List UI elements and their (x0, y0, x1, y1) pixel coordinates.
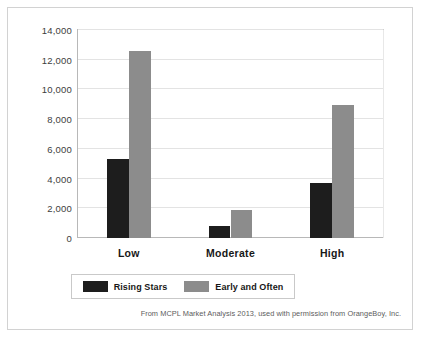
legend-label-early-and-often: Early and Often (215, 282, 283, 292)
legend-item: Rising Stars (83, 281, 168, 292)
bar-moderate-rising-stars (209, 226, 231, 238)
bar-moderate-early-and-often (231, 210, 253, 238)
chart-figure: 02,0004,0006,0008,00010,00012,00014,000 … (7, 7, 413, 330)
x-tick-label-low: Low (118, 247, 140, 259)
legend-item: Early and Often (184, 281, 283, 292)
bar-high-rising-stars (310, 183, 332, 238)
x-tick-label-moderate: Moderate (206, 247, 255, 259)
y-tick-label: 8,000 (47, 114, 72, 125)
chart-caption: From MCPL Market Analysis 2013, used wit… (8, 309, 401, 318)
y-tick-label: 12,000 (42, 54, 72, 65)
gridline (78, 88, 383, 89)
legend-swatch-rising-stars (83, 281, 108, 292)
legend-label-rising-stars: Rising Stars (114, 282, 168, 292)
plot-area: 02,0004,0006,0008,00010,00012,00014,000 … (77, 29, 384, 238)
bar-high-early-and-often (332, 105, 354, 238)
chart-legend: Rising Stars Early and Often (71, 274, 295, 299)
y-tick-label: 0 (67, 233, 72, 244)
y-tick-label: 10,000 (42, 84, 72, 95)
bar-low-rising-stars (107, 159, 129, 238)
y-tick-label: 14,000 (42, 25, 72, 36)
y-tick-label: 2,000 (47, 203, 72, 214)
gridline (78, 29, 383, 30)
legend-swatch-early-and-often (184, 281, 209, 292)
x-tick-label-high: High (320, 247, 345, 259)
bar-low-early-and-often (129, 51, 151, 238)
gridline (78, 59, 383, 60)
y-tick-label: 6,000 (47, 143, 72, 154)
y-tick-label: 4,000 (47, 173, 72, 184)
